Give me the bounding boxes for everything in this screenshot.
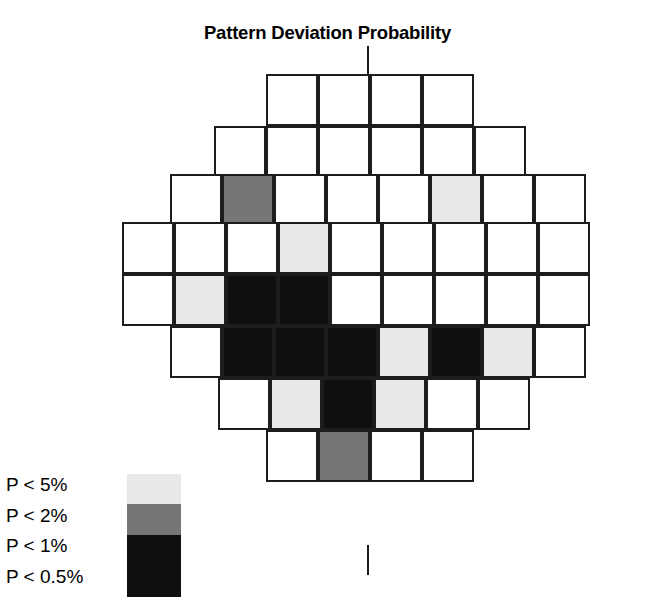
vf-cell-r5-c1 xyxy=(122,274,174,326)
vf-cell-r3-c6 xyxy=(430,174,482,226)
vf-cell-r8-c1 xyxy=(266,430,318,482)
vf-cell-r3-c8 xyxy=(534,174,586,226)
legend-item-p05: P < 0.5% xyxy=(6,562,124,593)
vf-cell-r3-c2 xyxy=(222,174,274,226)
legend-item-p2: P < 2% xyxy=(6,501,124,532)
vf-cell-r1-c3 xyxy=(370,74,422,126)
vf-cell-r5-c9 xyxy=(538,274,590,326)
vf-cell-r6-c3 xyxy=(274,326,326,378)
vf-cell-r5-c4 xyxy=(278,274,330,326)
vf-cell-r4-c6 xyxy=(382,222,434,274)
vf-cell-r3-c4 xyxy=(326,174,378,226)
vf-cell-r8-c4 xyxy=(422,430,474,482)
legend-item-p1: P < 1% xyxy=(6,531,124,562)
vf-cell-r2-c3 xyxy=(318,126,370,178)
vf-cell-r4-c3 xyxy=(226,222,278,274)
vf-cell-r4-c7 xyxy=(434,222,486,274)
vf-cell-r5-c7 xyxy=(434,274,486,326)
vf-cell-r6-c6 xyxy=(430,326,482,378)
vf-cell-r5-c5 xyxy=(330,274,382,326)
legend-swatch-band-1 xyxy=(127,474,181,504)
pattern-deviation-probability-plot: Pattern Deviation Probability P < 5% P <… xyxy=(0,0,655,602)
legend-item-p5: P < 5% xyxy=(6,470,124,501)
legend-labels: P < 5% P < 2% P < 1% P < 0.5% xyxy=(6,470,124,592)
vf-cell-r4-c2 xyxy=(174,222,226,274)
vf-cell-r6-c4 xyxy=(326,326,378,378)
vf-cell-r4-c4 xyxy=(278,222,330,274)
vf-cell-r1-c4 xyxy=(422,74,474,126)
vf-cell-r8-c3 xyxy=(370,430,422,482)
vf-cell-r7-c2 xyxy=(270,378,322,430)
vf-cell-r7-c1 xyxy=(218,378,270,430)
vf-cell-r7-c3 xyxy=(322,378,374,430)
vf-cell-r3-c7 xyxy=(482,174,534,226)
vf-cell-r3-c3 xyxy=(274,174,326,226)
vf-cell-r1-c2 xyxy=(318,74,370,126)
vf-cell-r2-c1 xyxy=(214,126,266,178)
vf-cell-r6-c8 xyxy=(534,326,586,378)
vf-cell-r4-c8 xyxy=(486,222,538,274)
vf-cell-r6-c1 xyxy=(170,326,222,378)
vf-cell-r5-c8 xyxy=(486,274,538,326)
legend-swatch-column xyxy=(127,474,181,597)
vf-cell-r2-c6 xyxy=(474,126,526,178)
vf-cell-r7-c4 xyxy=(374,378,426,430)
vf-cell-r4-c1 xyxy=(122,222,174,274)
legend: P < 5% P < 2% P < 1% P < 0.5% xyxy=(6,470,196,602)
vf-cell-r5-c2 xyxy=(174,274,226,326)
vf-cell-r6-c2 xyxy=(222,326,274,378)
vf-cell-r1-c1 xyxy=(266,74,318,126)
vf-cell-r4-c9 xyxy=(538,222,590,274)
vf-cell-r2-c2 xyxy=(266,126,318,178)
vf-cell-r5-c6 xyxy=(382,274,434,326)
vf-cell-r8-c2 xyxy=(318,430,370,482)
vf-cell-r7-c6 xyxy=(478,378,530,430)
vf-cell-r5-c3 xyxy=(226,274,278,326)
vf-cell-r3-c5 xyxy=(378,174,430,226)
vf-cell-r6-c7 xyxy=(482,326,534,378)
vf-cell-r3-c1 xyxy=(170,174,222,226)
legend-swatch-band-3 xyxy=(127,535,181,597)
vf-cell-r6-c5 xyxy=(378,326,430,378)
vf-cell-r4-c5 xyxy=(330,222,382,274)
legend-swatch-band-2 xyxy=(127,504,181,535)
vf-cell-r2-c5 xyxy=(422,126,474,178)
vf-cell-r7-c5 xyxy=(426,378,478,430)
vf-cell-r2-c4 xyxy=(370,126,422,178)
